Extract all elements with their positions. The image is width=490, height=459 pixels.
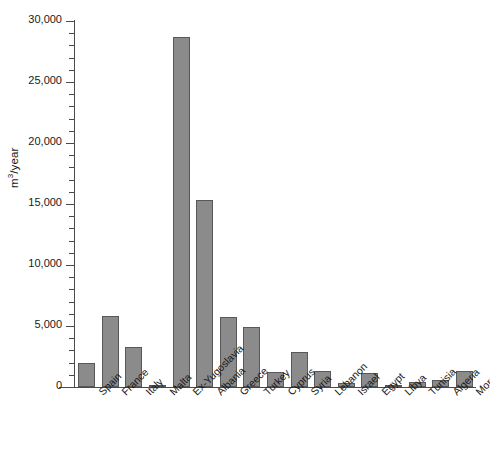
bar-slot (287, 21, 311, 387)
bar-slot (358, 21, 382, 387)
bar-slot (75, 21, 99, 387)
y-tick-label: 0 (56, 379, 62, 391)
x-axis-tick-label: Israel (355, 389, 363, 397)
x-axis-tick-label: Libya (402, 389, 410, 397)
bar-slot (405, 21, 429, 387)
bar[interactable] (173, 37, 190, 387)
x-axis-category-labels: SpainFranceItalyMaltaEx-YugoslaviaAlbani… (75, 389, 476, 459)
tick-mark (66, 143, 74, 144)
tick-mark (69, 167, 74, 168)
bar-slot (146, 21, 170, 387)
tick-mark (69, 106, 74, 107)
bar[interactable] (196, 200, 213, 387)
y-tick-label: 30,000 (28, 13, 62, 25)
tick-mark (69, 58, 74, 59)
y-tick-label: 25,000 (28, 74, 62, 86)
x-axis-tick-label: France (119, 389, 127, 397)
y-tick-label: 10,000 (28, 257, 62, 269)
bar-slot (240, 21, 264, 387)
bar-slot (382, 21, 406, 387)
tick-mark (66, 387, 74, 388)
bar-slot (99, 21, 123, 387)
x-axis-tick-label: Spain (96, 389, 104, 397)
bar-slot (452, 21, 476, 387)
bar-slot (311, 21, 335, 387)
x-axis-tick-label: Turkey (261, 389, 269, 397)
tick-mark (69, 228, 74, 229)
bar-slot (334, 21, 358, 387)
y-tick-label: 5,000 (34, 318, 62, 330)
tick-mark (69, 363, 74, 364)
bars-layer (75, 21, 476, 387)
x-axis-tick-label: Algeria (450, 389, 458, 397)
x-axis-tick-label: Cyprus (285, 389, 293, 397)
tick-mark (69, 119, 74, 120)
tick-mark (69, 241, 74, 242)
x-axis-tick-label: Italy (143, 389, 151, 397)
bar-slot (264, 21, 288, 387)
tick-mark (66, 21, 74, 22)
tick-mark (69, 45, 74, 46)
bar-slot (169, 21, 193, 387)
tick-mark (69, 253, 74, 254)
x-axis-tick-label: Malta (167, 389, 175, 397)
bar-chart-figure: m3/year 05,00010,00015,00020,00025,00030… (0, 0, 490, 459)
x-axis-tick-label: Lebanon (332, 389, 340, 397)
tick-mark (69, 350, 74, 351)
x-axis-tick-label: Tunisia (426, 389, 434, 397)
x-axis-tick-label: Albania (214, 389, 222, 397)
y-tick-label: 20,000 (28, 135, 62, 147)
tick-mark (69, 180, 74, 181)
x-axis-tick-label: Ex-Yugoslavia (190, 389, 198, 397)
tick-mark (69, 192, 74, 193)
tick-mark (69, 70, 74, 71)
tick-mark (69, 375, 74, 376)
tick-mark (69, 338, 74, 339)
bar-slot (122, 21, 146, 387)
tick-mark (66, 326, 74, 327)
tick-mark (69, 94, 74, 95)
x-axis-tick-label: Greece (237, 389, 245, 397)
bar-slot (429, 21, 453, 387)
y-axis-title: m3/year (8, 68, 20, 188)
tick-mark (69, 131, 74, 132)
bar-slot (193, 21, 217, 387)
tick-mark (69, 155, 74, 156)
y-axis-title-exponent: 3 (6, 174, 15, 179)
tick-mark (69, 33, 74, 34)
tick-mark (66, 82, 74, 83)
tick-mark (69, 277, 74, 278)
bar-slot (217, 21, 241, 387)
tick-mark (66, 265, 74, 266)
bar[interactable] (78, 363, 95, 387)
tick-mark (66, 204, 74, 205)
tick-mark (69, 314, 74, 315)
tick-mark (69, 289, 74, 290)
x-axis-tick-label: Syria (308, 389, 316, 397)
y-tick-label: 15,000 (28, 196, 62, 208)
x-axis-tick-label: Egypt (379, 389, 387, 397)
tick-mark (69, 216, 74, 217)
tick-mark (69, 302, 74, 303)
x-axis-tick-label: Morocco (473, 389, 481, 397)
